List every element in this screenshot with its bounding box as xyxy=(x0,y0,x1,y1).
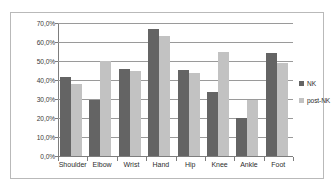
bar xyxy=(148,29,159,156)
y-axis-tick-label: 50,0% xyxy=(37,58,55,65)
bar-group xyxy=(58,23,87,156)
legend-swatch-post-nk xyxy=(299,98,304,103)
legend-item: NK xyxy=(299,79,330,87)
plot-area xyxy=(58,23,293,156)
x-axis-category-label: Foot xyxy=(271,161,285,168)
y-axis-tick-label: 70,0% xyxy=(37,20,55,27)
x-axis-tick-mark xyxy=(87,157,88,161)
legend-item: post-NK xyxy=(299,96,330,104)
legend-label: post-NK xyxy=(307,97,330,104)
x-axis-category-label: Ankle xyxy=(240,161,258,168)
y-axis-tick-label: 40,0% xyxy=(37,77,55,84)
x-axis-category-label: Hip xyxy=(185,161,196,168)
bar-group xyxy=(117,23,146,156)
x-axis-tick-mark xyxy=(117,157,118,161)
bar xyxy=(159,36,170,156)
x-axis-tick-mark xyxy=(205,157,206,161)
bar xyxy=(71,84,82,156)
bar-group xyxy=(87,23,116,156)
y-axis-tick-label: 60,0% xyxy=(37,39,55,46)
chart-legend: NKpost-NK xyxy=(299,79,330,113)
bar xyxy=(130,71,141,157)
x-axis-tick-mark xyxy=(293,157,294,161)
bar xyxy=(100,61,111,156)
y-axis-tick-label: 20,0% xyxy=(37,115,55,122)
x-axis-tick-mark xyxy=(264,157,265,161)
x-axis-tick-mark xyxy=(176,157,177,161)
x-axis-category-label: Shoulder xyxy=(59,161,87,168)
bar xyxy=(119,69,130,156)
x-axis-tick-mark xyxy=(234,157,235,161)
legend-swatch-nk xyxy=(299,81,304,86)
x-axis-category-label: Wrist xyxy=(124,161,140,168)
x-axis-category-label: Hand xyxy=(152,161,169,168)
bar xyxy=(266,53,277,156)
bar-group xyxy=(234,23,263,156)
bar-group xyxy=(205,23,234,156)
x-axis-category-label: Knee xyxy=(211,161,227,168)
bar xyxy=(247,100,258,156)
bar xyxy=(189,73,200,156)
bar xyxy=(277,63,288,156)
x-axis-category-label: Elbow xyxy=(93,161,112,168)
bar-group xyxy=(146,23,175,156)
bar xyxy=(60,77,71,156)
y-axis-tick-label: 10,0% xyxy=(37,134,55,141)
bar xyxy=(236,118,247,156)
bar xyxy=(207,92,218,156)
y-axis-labels: 0,0%10,0%20,0%30,0%40,0%50,0%60,0%70,0% xyxy=(11,13,55,178)
y-axis-tick-label: 30,0% xyxy=(37,96,55,103)
bar-group xyxy=(264,23,293,156)
bar-group xyxy=(176,23,205,156)
y-axis-tick-label: 0,0% xyxy=(40,153,55,160)
bar xyxy=(178,70,189,156)
bar xyxy=(89,100,100,156)
legend-label: NK xyxy=(307,80,316,87)
chart-frame: 0,0%10,0%20,0%30,0%40,0%50,0%60,0%70,0% … xyxy=(10,12,324,179)
bar xyxy=(218,52,229,157)
x-axis-tick-mark xyxy=(146,157,147,161)
